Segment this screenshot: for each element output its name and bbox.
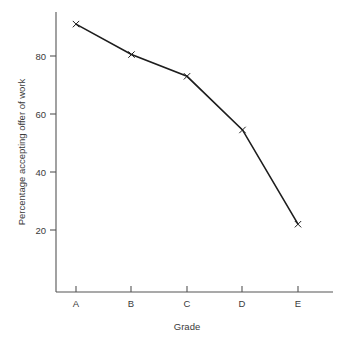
data-line-series <box>76 24 298 224</box>
x-tick-label: D <box>239 298 246 309</box>
x-tick-label: B <box>128 298 134 309</box>
line-chart: 80 60 40 20 A B C D E Grade Percentage a… <box>0 0 339 343</box>
x-axis-ticks <box>76 286 298 292</box>
data-point-marker <box>239 127 245 133</box>
data-point-marker <box>73 21 79 27</box>
y-tick-label: 60 <box>35 109 46 120</box>
data-point-marker <box>295 221 301 227</box>
data-point-marker <box>184 73 190 79</box>
y-axis-tick-labels: 80 60 40 20 <box>35 51 46 236</box>
x-axis-title: Grade <box>174 321 200 332</box>
x-tick-label: A <box>73 298 80 309</box>
data-point-marker <box>128 51 134 57</box>
x-tick-label: C <box>184 298 191 309</box>
y-axis-ticks <box>50 56 56 230</box>
x-tick-label: E <box>295 298 301 309</box>
chart-canvas: 80 60 40 20 A B C D E Grade Percentage a… <box>0 0 339 343</box>
y-tick-label: 20 <box>35 225 46 236</box>
y-tick-label: 80 <box>35 51 46 62</box>
x-axis-tick-labels: A B C D E <box>73 298 301 309</box>
data-point-markers <box>73 21 301 228</box>
y-tick-label: 40 <box>35 167 46 178</box>
y-axis-title: Percentage accepting offer of work <box>16 78 27 225</box>
